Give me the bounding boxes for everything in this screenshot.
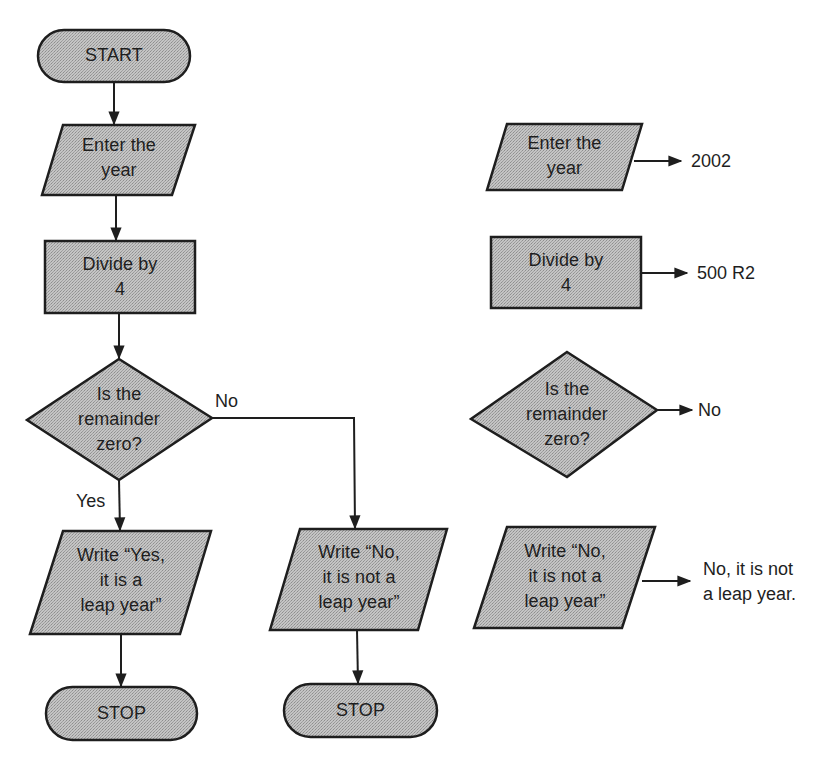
trace-input-result: 2002 (691, 149, 731, 174)
stop-yes-label: STOP (46, 701, 197, 726)
trace-process-result: 500 R2 (697, 261, 755, 286)
branch-no-label: No (215, 389, 238, 414)
trace-process-label: Divide by 4 (491, 248, 641, 298)
stop-no-label: STOP (284, 698, 437, 723)
output-yes-label: Write “Yes, it is a leap year” (46, 543, 196, 618)
trace-decision-result: No (698, 398, 721, 423)
output-no-label: Write “No, it is not a leap year” (284, 540, 434, 615)
trace-input-label: Enter the year (497, 131, 632, 181)
connector-output-no-to-stop (357, 630, 358, 683)
start-label: START (38, 43, 190, 68)
branch-yes-label: Yes (76, 489, 105, 514)
trace-output-label: Write “No, it is not a leap year” (490, 539, 640, 614)
connector-decision-yes (119, 480, 120, 530)
input-label: Enter the year (52, 133, 186, 183)
trace-decision-label: Is the remainder zero? (504, 377, 630, 452)
process-label: Divide by 4 (45, 252, 195, 302)
trace-output-result: No, it is not a leap year. (703, 557, 796, 607)
decision-label: Is the remainder zero? (59, 382, 179, 457)
connector-decision-no (212, 418, 355, 528)
